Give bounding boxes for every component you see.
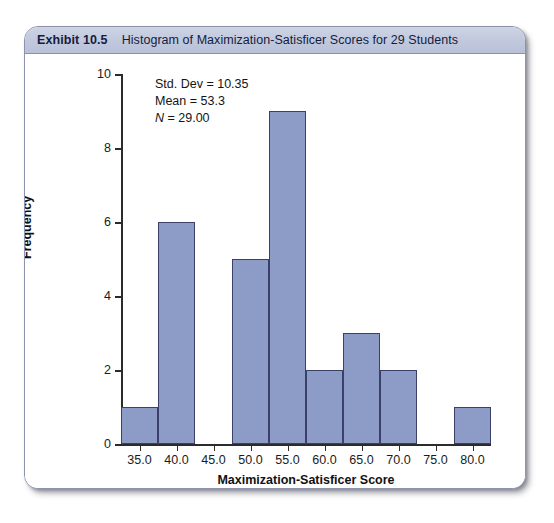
histogram-bar xyxy=(121,407,158,444)
x-tick-mark xyxy=(214,445,216,451)
x-tick-label: 65.0 xyxy=(349,453,373,467)
y-tick-label: 2 xyxy=(104,363,111,377)
x-tick-label: 60.0 xyxy=(312,453,336,467)
y-tick-label: 8 xyxy=(104,141,111,155)
x-tick-mark xyxy=(251,445,253,451)
std-dev-line: Std. Dev = 10.35 xyxy=(155,76,248,93)
y-tick-mark xyxy=(115,74,121,76)
x-tick-mark xyxy=(473,445,475,451)
exhibit-card: Exhibit 10.5 Histogram of Maximization-S… xyxy=(24,26,526,489)
histogram-plot: Frequency Maximization-Satisficer Score … xyxy=(25,54,525,488)
y-tick-mark xyxy=(115,370,121,372)
x-tick-label: 35.0 xyxy=(127,453,151,467)
y-axis-title: Frequency xyxy=(24,196,34,259)
x-tick-label: 70.0 xyxy=(386,453,410,467)
y-tick-label: 0 xyxy=(104,437,111,451)
x-tick-mark xyxy=(177,445,179,451)
x-tick-mark xyxy=(362,445,364,451)
mean-line: Mean = 53.3 xyxy=(155,93,248,110)
y-tick-mark xyxy=(115,444,121,446)
histogram-bar xyxy=(343,333,380,444)
x-tick-mark xyxy=(288,445,290,451)
n-value: = 29.00 xyxy=(164,111,210,125)
x-tick-label: 55.0 xyxy=(275,453,299,467)
x-tick-label: 45.0 xyxy=(201,453,225,467)
histogram-bar xyxy=(158,222,195,444)
exhibit-header: Exhibit 10.5 Histogram of Maximization-S… xyxy=(25,27,525,54)
histogram-bar xyxy=(380,370,417,444)
statistics-annotation: Std. Dev = 10.35 Mean = 53.3 N = 29.00 xyxy=(155,76,248,127)
exhibit-number: Exhibit 10.5 xyxy=(37,33,108,47)
histogram-bar xyxy=(454,407,491,444)
exhibit-title: Histogram of Maximization-Satisficer Sco… xyxy=(122,33,458,47)
x-tick-mark xyxy=(140,445,142,451)
x-tick-mark xyxy=(436,445,438,451)
y-tick-mark xyxy=(115,222,121,224)
x-tick-label: 75.0 xyxy=(423,453,447,467)
histogram-bar xyxy=(232,259,269,444)
histogram-bar xyxy=(306,370,343,444)
x-tick-label: 80.0 xyxy=(460,453,484,467)
y-tick-label: 4 xyxy=(104,289,111,303)
x-tick-mark xyxy=(399,445,401,451)
histogram-bar xyxy=(269,111,306,444)
y-tick-label: 10 xyxy=(97,67,111,81)
y-tick-label: 6 xyxy=(104,215,111,229)
n-line: N = 29.00 xyxy=(155,110,248,127)
n-symbol: N xyxy=(155,111,164,125)
x-axis-title: Maximization-Satisficer Score xyxy=(121,473,491,487)
x-tick-label: 50.0 xyxy=(238,453,262,467)
y-tick-mark xyxy=(115,148,121,150)
y-tick-mark xyxy=(115,296,121,298)
y-axis-line xyxy=(121,74,123,445)
x-tick-mark xyxy=(325,445,327,451)
x-tick-label: 40.0 xyxy=(164,453,188,467)
